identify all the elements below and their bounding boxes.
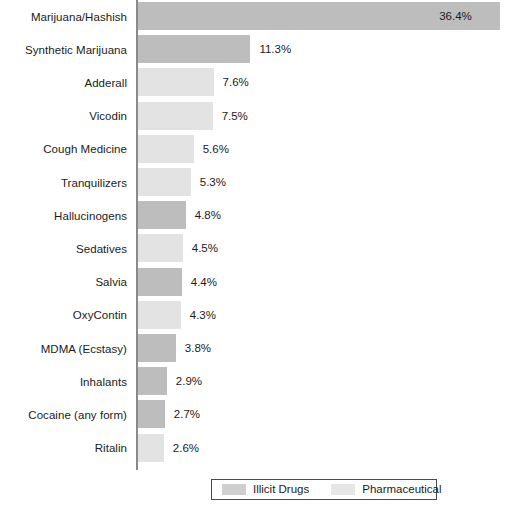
bar-track: 11.3% xyxy=(138,35,522,63)
bar-pharma xyxy=(138,68,214,96)
bar-pharma xyxy=(138,434,164,462)
bar-value-label: 4.8% xyxy=(195,209,221,222)
bar-track: 4.5% xyxy=(138,234,522,262)
bar-track: 4.3% xyxy=(138,301,522,329)
bar-row: Ritalin2.6% xyxy=(0,432,522,465)
bar-track: 2.9% xyxy=(138,367,522,395)
bar-row: Salvia4.4% xyxy=(0,266,522,299)
bar-value-label: 4.4% xyxy=(191,275,217,288)
bar-value-label: 2.6% xyxy=(173,441,199,454)
bar-pharma xyxy=(138,102,213,130)
bar-track: 2.7% xyxy=(138,400,522,428)
bar-track: 4.8% xyxy=(138,201,522,229)
bar-illicit xyxy=(138,400,165,428)
legend-item-pharma[interactable]: Pharmaceutical xyxy=(331,480,441,499)
category-label: Ritalin xyxy=(0,442,127,455)
category-label: Cocaine (any form) xyxy=(0,408,127,421)
bar-value-label: 4.3% xyxy=(190,308,216,321)
legend-label: Pharmaceutical xyxy=(362,483,441,496)
bar-row: Synthetic Marijuana11.3% xyxy=(0,33,522,66)
bar-row: Tranquilizers5.3% xyxy=(0,166,522,199)
bar-row: Sedatives4.5% xyxy=(0,232,522,265)
bar-track: 36.4% xyxy=(138,2,522,30)
category-label: Salvia xyxy=(0,276,127,289)
bar-value-label: 2.7% xyxy=(174,408,200,421)
bar-chart: Marijuana/Hashish36.4%Synthetic Marijuan… xyxy=(0,0,522,508)
category-label: Vicodin xyxy=(0,110,127,123)
bar-value-label: 2.9% xyxy=(176,375,202,388)
legend-item-illicit[interactable]: Illicit Drugs xyxy=(222,480,309,499)
bar-track: 7.6% xyxy=(138,68,522,96)
bar-row: Cocaine (any form)2.7% xyxy=(0,398,522,431)
bar-row: Cough Medicine5.6% xyxy=(0,133,522,166)
chart-legend: Illicit DrugsPharmaceutical xyxy=(211,479,437,500)
bar-track: 5.6% xyxy=(138,135,522,163)
plot-area: Marijuana/Hashish36.4%Synthetic Marijuan… xyxy=(0,0,522,470)
category-label: Cough Medicine xyxy=(0,143,127,156)
bar-pharma xyxy=(138,135,194,163)
legend-swatch-icon xyxy=(222,484,246,495)
bar-illicit xyxy=(138,334,176,362)
bar-pharma xyxy=(138,234,183,262)
bar-value-label: 7.5% xyxy=(222,109,248,122)
bar-row: OxyContin4.3% xyxy=(0,299,522,332)
bar-illicit xyxy=(138,367,167,395)
bar-pharma xyxy=(138,301,181,329)
category-label: MDMA (Ecstasy) xyxy=(0,342,127,355)
category-label: Sedatives xyxy=(0,242,127,255)
bar-row: Vicodin7.5% xyxy=(0,100,522,133)
bar-value-label: 36.4% xyxy=(439,10,472,23)
bar-value-label: 5.3% xyxy=(200,176,226,189)
bar-illicit xyxy=(138,35,250,63)
bar-value-label: 7.6% xyxy=(223,76,249,89)
bar-row: Hallucinogens4.8% xyxy=(0,199,522,232)
category-label: Synthetic Marijuana xyxy=(0,43,127,56)
bar-pharma xyxy=(138,168,191,196)
bar-value-label: 11.3% xyxy=(259,43,291,56)
bar-value-label: 3.8% xyxy=(185,342,211,355)
bar-row: Inhalants2.9% xyxy=(0,365,522,398)
bar-value-label: 4.5% xyxy=(192,242,218,255)
bar-track: 5.3% xyxy=(138,168,522,196)
bar-track: 7.5% xyxy=(138,102,522,130)
legend-swatch-icon xyxy=(331,484,355,495)
bar-illicit xyxy=(138,268,182,296)
category-label: OxyContin xyxy=(0,309,127,322)
bar-illicit xyxy=(138,201,186,229)
category-label: Inhalants xyxy=(0,375,127,388)
bar-row: Marijuana/Hashish36.4% xyxy=(0,0,522,33)
category-label: Hallucinogens xyxy=(0,209,127,222)
legend-label: Illicit Drugs xyxy=(253,483,309,496)
category-label: Tranquilizers xyxy=(0,176,127,189)
bar-row: Adderall7.6% xyxy=(0,66,522,99)
bar-track: 4.4% xyxy=(138,268,522,296)
bar-track: 2.6% xyxy=(138,434,522,462)
bar-track: 3.8% xyxy=(138,334,522,362)
bar-value-label: 5.6% xyxy=(203,142,229,155)
category-label: Marijuana/Hashish xyxy=(0,10,127,23)
bar-row: MDMA (Ecstasy)3.8% xyxy=(0,332,522,365)
category-label: Adderall xyxy=(0,76,127,89)
